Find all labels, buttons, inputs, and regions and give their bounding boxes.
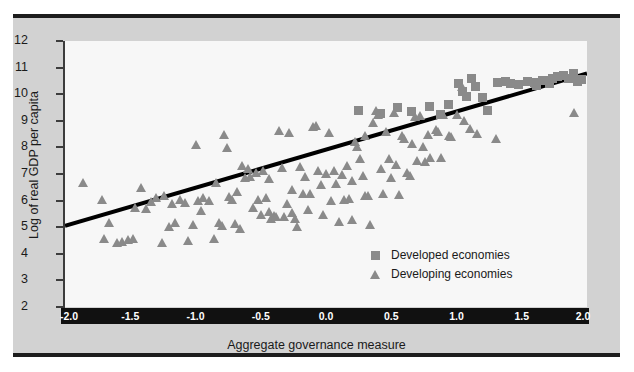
data-point-developing (344, 194, 354, 203)
data-point-developing (188, 220, 198, 229)
x-tick-label: -2.0 (49, 310, 89, 322)
data-point-developing (78, 178, 88, 187)
legend-item-developed: Developed economies (369, 246, 512, 265)
data-point-developing (287, 208, 297, 217)
data-point-developing (316, 180, 326, 189)
y-tick-label: 2 (0, 300, 28, 313)
data-point-developing (219, 130, 229, 139)
data-point-developing (381, 127, 391, 136)
x-tick-label: 0.0 (306, 310, 346, 322)
data-point-developing (104, 218, 114, 227)
data-point-developing (167, 199, 177, 208)
data-point-developing (326, 196, 336, 205)
data-point-developing (405, 171, 415, 180)
legend-label-developed: Developed economies (391, 248, 510, 262)
y-tick-mark (56, 173, 63, 175)
y-tick-mark (56, 226, 63, 228)
data-point-developing (569, 108, 579, 117)
data-point-developing (376, 164, 386, 173)
y-tick-label: 12 (0, 34, 28, 47)
legend-item-developing: Developing economies (369, 265, 512, 284)
data-point-developing (389, 108, 399, 117)
legend-label-developing: Developing economies (391, 267, 512, 281)
data-point-developing (211, 178, 221, 187)
data-point-developing (274, 126, 284, 135)
data-point-developing (128, 234, 138, 243)
data-point-developed (471, 82, 480, 91)
data-point-developing (358, 171, 368, 180)
data-point-developing (365, 220, 375, 229)
chart-legend: Developed economies Developing economies (369, 246, 512, 284)
y-tick-mark (56, 93, 63, 95)
y-tick-mark (56, 40, 63, 42)
data-point-developing (436, 153, 446, 162)
y-tick-label: 3 (0, 273, 28, 286)
y-tick-label: 11 (0, 61, 28, 74)
data-point-developing (196, 206, 206, 215)
data-point-developing (183, 236, 193, 245)
data-point-developing (472, 129, 482, 138)
data-point-developing (457, 82, 467, 91)
y-tick-label: 8 (0, 140, 28, 153)
data-point-developing (284, 128, 294, 137)
data-point-developed (462, 92, 471, 101)
data-point-developing (97, 195, 107, 204)
data-point-developed (532, 81, 541, 90)
data-point-developing (235, 224, 245, 233)
data-point-developing (378, 189, 388, 198)
data-point-developing (394, 190, 404, 199)
data-point-developing (209, 234, 219, 243)
data-point-developing (407, 139, 417, 148)
data-point-developing (386, 173, 396, 182)
figure-panel: Log of real GDP per capita 1211109876543… (13, 14, 620, 357)
y-axis-title: Log of real GDP per capita (27, 80, 41, 250)
data-point-developing (425, 153, 435, 162)
data-point-developing (331, 179, 341, 188)
y-tick-mark (56, 253, 63, 255)
data-point-developed (444, 100, 453, 109)
data-point-developing (342, 161, 352, 170)
data-point-developing (491, 134, 501, 143)
data-point-developing (360, 131, 370, 140)
data-point-developing (264, 207, 274, 216)
y-tick-label: 4 (0, 247, 28, 260)
data-point-developing (136, 183, 146, 192)
data-point-developed (514, 80, 523, 89)
x-tick-label: 1.0 (437, 310, 477, 322)
data-point-developing (415, 111, 425, 120)
data-point-developing (334, 217, 344, 226)
x-tick-label: -1.5 (110, 310, 150, 322)
data-point-developed (577, 75, 586, 84)
data-point-developed (545, 79, 554, 88)
data-point-developing (204, 196, 214, 205)
data-point-developing (337, 170, 347, 179)
data-point-developed (483, 106, 492, 115)
data-point-developing (261, 193, 271, 202)
data-point-developing (305, 189, 315, 198)
y-tick-label: 7 (0, 167, 28, 180)
data-point-developing (180, 198, 190, 207)
data-point-developing (170, 218, 180, 227)
data-point-developing (191, 140, 201, 149)
y-tick-mark (56, 200, 63, 202)
legend-square-marker-icon (371, 251, 380, 260)
data-point-developing (303, 205, 313, 214)
data-point-developed (478, 93, 487, 102)
data-point-developed (354, 106, 363, 115)
data-point-developing (277, 163, 287, 172)
y-tick-mark (56, 279, 63, 281)
data-point-developing (295, 162, 305, 171)
data-point-developing (363, 191, 373, 200)
data-point-developing (438, 110, 448, 119)
data-point-developing (99, 234, 109, 243)
data-point-developing (222, 143, 232, 152)
data-point-developing (311, 121, 321, 130)
data-point-developing (292, 222, 302, 231)
data-point-developing (347, 215, 357, 224)
data-point-developing (287, 185, 297, 194)
data-point-developing (352, 142, 362, 151)
x-tick-label: -0.5 (241, 310, 281, 322)
y-tick-label: 5 (0, 220, 28, 233)
legend-triangle-marker-icon (370, 270, 380, 279)
data-point-developing (324, 128, 334, 137)
